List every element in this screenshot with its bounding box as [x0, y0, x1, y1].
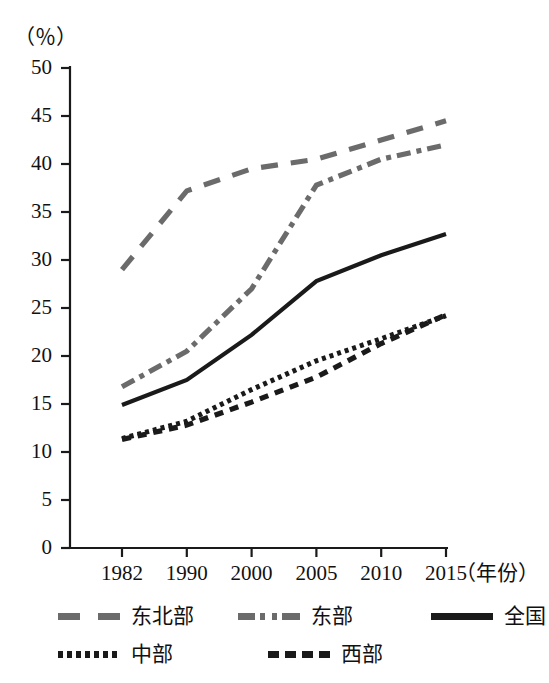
legend-swatch-quanguo-icon — [431, 613, 493, 620]
legend-label-zhongbu: 中部 — [131, 644, 173, 665]
legend-item-dongbeibu: 东北部 — [58, 606, 194, 627]
x-axis-title: （年份） — [455, 563, 539, 584]
legend-item-dongbu: 东部 — [238, 606, 353, 627]
legend-swatch-dongbu-icon — [238, 613, 300, 620]
y-tick-label: 30 — [12, 249, 52, 270]
series-line-0 — [122, 121, 446, 270]
legend-item-zhongbu: 中部 — [58, 644, 173, 665]
y-tick-label: 5 — [12, 489, 52, 510]
legend-label-dongbeibu: 东北部 — [131, 606, 194, 627]
y-axis-tick-marks — [61, 68, 70, 548]
y-tick-label: 50 — [12, 57, 52, 78]
legend-label-quanguo: 全国 — [504, 606, 546, 627]
y-tick-label: 0 — [12, 537, 52, 558]
y-tick-label: 10 — [12, 441, 52, 462]
series-line-2 — [122, 234, 446, 405]
legend-swatch-zhongbu-icon — [58, 651, 120, 658]
legend-row-1: 东北部 东部 全国 — [0, 598, 549, 634]
y-tick-label: 25 — [12, 297, 52, 318]
y-tick-label: 20 — [12, 345, 52, 366]
chart-legend: 东北部 东部 全国 中部 西部 — [0, 598, 541, 678]
y-tick-label: 35 — [12, 201, 52, 222]
x-tick-label: 2005 — [281, 563, 351, 584]
data-series-group — [122, 121, 446, 440]
legend-label-dongbu: 东部 — [311, 606, 353, 627]
legend-swatch-xibu-icon — [268, 651, 330, 658]
y-tick-label: 40 — [12, 153, 52, 174]
series-line-4 — [122, 315, 446, 440]
series-line-1 — [122, 145, 446, 387]
legend-item-quanguo: 全国 — [431, 606, 546, 627]
x-tick-label: 2010 — [346, 563, 416, 584]
x-tick-label: 1982 — [87, 563, 157, 584]
legend-row-2: 中部 西部 — [0, 636, 549, 672]
legend-item-xibu: 西部 — [268, 644, 383, 665]
legend-swatch-dongbeibu-icon — [58, 613, 120, 620]
x-axis-tick-marks — [122, 548, 446, 557]
y-tick-label: 15 — [12, 393, 52, 414]
y-tick-label: 45 — [12, 105, 52, 126]
legend-label-xibu: 西部 — [341, 644, 383, 665]
x-tick-label: 2000 — [217, 563, 287, 584]
x-tick-label: 1990 — [152, 563, 222, 584]
